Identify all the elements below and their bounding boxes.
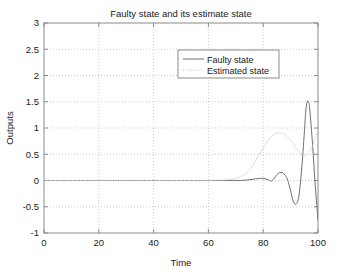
x-tick-label: 100 bbox=[310, 237, 326, 248]
x-tick-label: 0 bbox=[41, 237, 46, 248]
y-tick-label: 0 bbox=[34, 175, 39, 186]
line-chart: 020406080100 -1-0.500.511.522.53 Faulty … bbox=[0, 0, 341, 276]
y-tick-label: -1 bbox=[31, 227, 39, 238]
x-tick-label: 40 bbox=[148, 237, 159, 248]
y-tick-label: 3 bbox=[34, 17, 39, 28]
y-tick-label: 2.5 bbox=[26, 44, 39, 55]
chart-background bbox=[0, 0, 341, 276]
y-tick-label: 0.5 bbox=[26, 149, 39, 160]
x-axis-label: Time bbox=[171, 257, 192, 268]
chart-title: Faulty state and its estimate state bbox=[110, 8, 252, 19]
x-tick-label: 20 bbox=[94, 237, 105, 248]
x-tick-label: 60 bbox=[203, 237, 214, 248]
y-tick-label: -0.5 bbox=[23, 201, 39, 212]
x-tick-label: 80 bbox=[258, 237, 269, 248]
legend-label-estimated-state: Estimated state bbox=[207, 66, 269, 76]
y-tick-label: 2 bbox=[34, 70, 39, 81]
y-tick-label: 1 bbox=[34, 122, 39, 133]
figure-canvas: 020406080100 -1-0.500.511.522.53 Faulty … bbox=[0, 0, 341, 276]
y-tick-label: 1.5 bbox=[26, 96, 39, 107]
chart-legend[interactable]: Faulty state Estimated state bbox=[178, 50, 279, 78]
legend-label-faulty-state: Faulty state bbox=[207, 55, 254, 65]
y-axis-label: Outputs bbox=[4, 111, 15, 145]
